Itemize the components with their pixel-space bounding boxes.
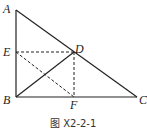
label-d: D <box>74 42 84 56</box>
figure-caption: 图 X2-2-1 <box>50 118 96 129</box>
label-f: F <box>69 98 78 112</box>
label-b: B <box>3 93 11 107</box>
label-a: A <box>2 2 11 16</box>
label-e: E <box>2 45 11 59</box>
geometry-figure: A E D B F C 图 X2-2-1 <box>0 0 147 130</box>
label-c: C <box>139 93 147 107</box>
